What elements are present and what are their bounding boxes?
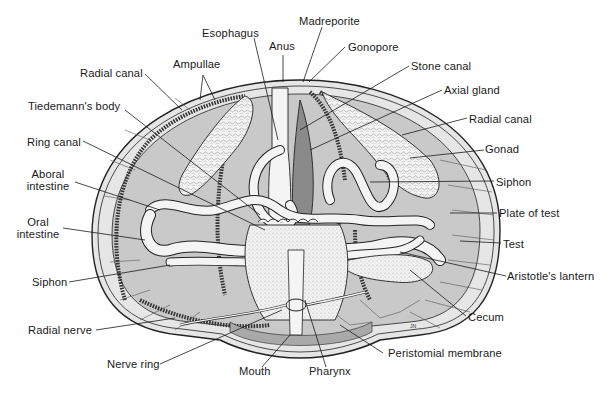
label-tiedemanns-body: Tiedemann's body	[28, 100, 120, 112]
label-esophagus: Esophagus	[202, 27, 259, 39]
label-oral-line2: intestine	[14, 228, 62, 240]
label-aboral-line2: intestine	[24, 180, 72, 192]
label-anus: Anus	[269, 40, 295, 52]
label-mouth: Mouth	[239, 365, 271, 377]
label-madreporite: Madreporite	[299, 15, 360, 27]
label-siphon-left: Siphon	[32, 276, 67, 288]
sea-urchin-diagram: Madreporite Esophagus Anus Gonopore Ampu…	[0, 0, 615, 394]
label-gonopore: Gonopore	[348, 41, 399, 53]
label-aristotles-lantern: Aristotle's lantern	[507, 270, 594, 282]
label-cecum: Cecum	[468, 311, 504, 323]
label-gonad: Gonad	[485, 143, 519, 155]
label-pharynx: Pharynx	[309, 365, 351, 377]
label-plate-of-test: Plate of test	[499, 207, 559, 219]
label-radial-canal-right: Radial canal	[469, 113, 532, 125]
label-aboral-line1: Aboral	[24, 168, 72, 180]
anatomy-illustration	[0, 0, 615, 394]
label-oral-intestine: Oral intestine	[14, 216, 62, 240]
label-stone-canal: Stone canal	[411, 60, 471, 72]
label-aboral-intestine: Aboral intestine	[24, 168, 72, 192]
label-radial-canal-left: Radial canal	[80, 67, 143, 79]
label-test: Test	[503, 238, 524, 250]
label-oral-line1: Oral	[14, 216, 62, 228]
label-siphon-right: Siphon	[496, 176, 531, 188]
label-ring-canal: Ring canal	[27, 136, 81, 148]
label-ampullae: Ampullae	[173, 58, 220, 70]
artist-signature: JN	[410, 323, 416, 329]
label-nerve-ring: Nerve ring	[107, 358, 160, 370]
label-radial-nerve: Radial nerve	[28, 324, 92, 336]
label-peristomial-membrane: Peristomial membrane	[388, 347, 502, 359]
label-axial-gland: Axial gland	[444, 84, 500, 96]
